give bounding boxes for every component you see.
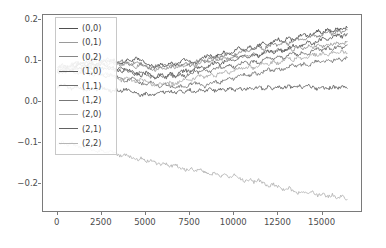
legend-line-swatch (59, 85, 78, 86)
legend-item-label: (1,0) (82, 67, 101, 75)
legend-line-swatch (59, 100, 78, 101)
legend-line-swatch (59, 143, 78, 144)
legend: (0,0)(0,1)(0,2)(1,0)(1,1)(1,2)(2,0)(2,1)… (55, 17, 117, 155)
legend-item[interactable]: (1,2) (58, 93, 113, 107)
x-tick-mark (233, 212, 234, 215)
legend-item[interactable]: (0,0) (58, 21, 113, 35)
x-tick-label: 12500 (264, 217, 291, 227)
legend-item[interactable]: (0,1) (58, 35, 113, 49)
legend-item[interactable]: (1,0) (58, 64, 113, 78)
x-tick-mark (277, 212, 278, 215)
legend-item-label: (0,1) (82, 38, 101, 46)
legend-item-label: (0,2) (82, 53, 101, 61)
x-tick-mark (189, 212, 190, 215)
legend-line-swatch (59, 71, 78, 72)
x-tick-label: 15000 (308, 217, 335, 227)
legend-item[interactable]: (2,1) (58, 122, 113, 136)
legend-item-label: (2,1) (82, 125, 101, 133)
x-tick-mark (101, 212, 102, 215)
legend-item[interactable]: (1,1) (58, 79, 113, 93)
legend-item-label: (2,2) (82, 139, 101, 147)
legend-line-swatch (59, 114, 78, 115)
legend-item-label: (2,0) (82, 110, 101, 118)
legend-line-swatch (59, 56, 78, 57)
x-tick-mark (57, 212, 58, 215)
legend-item-label: (0,0) (82, 24, 101, 32)
legend-item[interactable]: (2,2) (58, 136, 113, 150)
legend-item[interactable]: (2,0) (58, 107, 113, 121)
legend-line-swatch (59, 42, 78, 43)
legend-line-swatch (59, 128, 78, 129)
matplotlib-figure: 0.20.10.0−0.1−0.2 0250050007500100001250… (0, 0, 386, 248)
x-tick-label: 10000 (220, 217, 247, 227)
x-tick-label: 2500 (90, 217, 112, 227)
legend-item[interactable]: (0,2) (58, 50, 113, 64)
legend-line-swatch (59, 28, 78, 29)
legend-item-label: (1,2) (82, 96, 101, 104)
x-tick-label: 7500 (178, 217, 200, 227)
legend-item-label: (1,1) (82, 82, 101, 90)
x-tick-label: 5000 (134, 217, 156, 227)
x-tick-mark (322, 212, 323, 215)
x-tick-mark (145, 212, 146, 215)
x-tick-label: 0 (54, 217, 59, 227)
